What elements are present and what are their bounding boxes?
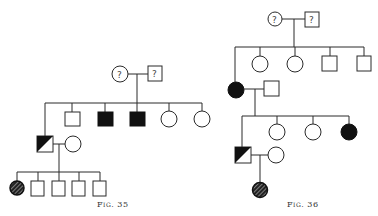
female-affected-symbol xyxy=(228,82,244,98)
male-unaffected-symbol xyxy=(65,112,80,126)
fig36-gen3 xyxy=(235,116,357,182)
male-unaffected-symbol xyxy=(357,56,371,71)
female-unaffected-symbol xyxy=(65,136,81,152)
female-affected-symbol xyxy=(341,124,357,140)
fig36-gen4 xyxy=(253,183,268,198)
caption-text: Fig. 36 xyxy=(287,200,318,209)
female-unaffected-symbol xyxy=(269,124,285,140)
male-half-affected-symbol xyxy=(37,136,53,152)
caption-text: Fig. 35 xyxy=(97,200,128,209)
male-unaffected-symbol xyxy=(72,181,85,196)
female-unaffected-symbol xyxy=(305,124,321,140)
male-half-affected-symbol xyxy=(235,147,251,163)
male-unaffected-symbol xyxy=(322,56,337,71)
female-unaffected-symbol xyxy=(252,56,268,72)
fig36-gen1: ? ? xyxy=(268,12,319,47)
male-unaffected-symbol xyxy=(264,81,279,96)
female-hatched-affected-symbol xyxy=(10,181,24,195)
figure-caption-36: Fig. 36 xyxy=(287,200,318,209)
male-unaffected-symbol xyxy=(52,181,65,196)
figure-caption-35: Fig. 35 xyxy=(97,200,128,209)
fig35-gen1: ? ? xyxy=(112,66,162,103)
male-unaffected-symbol xyxy=(93,181,106,196)
unknown-mark: ? xyxy=(117,70,122,80)
female-unaffected-symbol xyxy=(161,111,177,127)
male-affected-symbol xyxy=(130,112,145,126)
male-affected-symbol xyxy=(98,112,113,126)
unknown-mark: ? xyxy=(152,69,157,79)
fig35-gen3 xyxy=(10,172,106,196)
female-unaffected-symbol xyxy=(194,111,210,127)
female-unaffected-symbol xyxy=(268,147,284,163)
pedigree-diagrams: ? ? xyxy=(0,0,378,216)
female-hatched-affected-symbol xyxy=(253,183,268,198)
fig35-gen2 xyxy=(37,103,210,172)
male-unaffected-symbol xyxy=(31,181,44,196)
unknown-mark: ? xyxy=(309,15,314,25)
pedigree-fig-35: ? ? xyxy=(10,66,210,196)
female-unaffected-symbol xyxy=(287,56,303,72)
fig36-gen2 xyxy=(228,47,371,116)
unknown-mark: ? xyxy=(272,15,277,25)
pedigree-fig-36: ? ? xyxy=(228,12,371,198)
